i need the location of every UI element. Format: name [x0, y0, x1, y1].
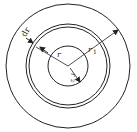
concentric-circle-diagram: dr r r 1 r 2: [0, 0, 137, 132]
label-r2-sub: 2: [70, 79, 76, 82]
dr-arrow-outer: [26, 38, 33, 43]
label-dr: dr: [20, 26, 32, 38]
r-line: [36, 47, 68, 66]
label-r1-sub: 1: [93, 48, 97, 55]
diagram-canvas: dr r r 1 r 2: [0, 0, 137, 132]
label-r: r: [57, 50, 62, 59]
